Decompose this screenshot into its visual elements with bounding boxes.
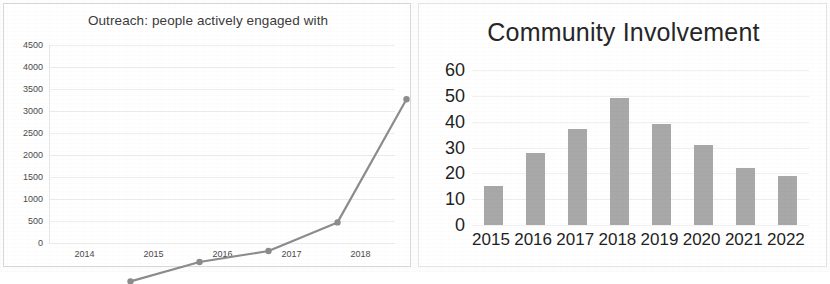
community-involvement-bar-chart-panel: Community Involvement 60 50 40 30 20 10 … xyxy=(418,3,827,267)
community-x-tick-label: 2020 xyxy=(678,230,726,250)
community-y-tick-label: 0 xyxy=(425,216,465,234)
outreach-y-tick-label: 2000 xyxy=(3,151,43,160)
community-gridline xyxy=(472,225,809,226)
community-chart-title: Community Involvement xyxy=(419,18,828,47)
community-x-tick-label: 2017 xyxy=(551,230,599,250)
outreach-plot-area: 4500 4000 3500 3000 2500 2000 1500 1000 … xyxy=(50,45,395,243)
community-plot-area: 60 50 40 30 20 10 0 2015 2016 2017 2018 … xyxy=(472,70,809,225)
outreach-y-tick-label: 500 xyxy=(3,217,43,226)
outreach-y-tick-label: 2500 xyxy=(3,129,43,138)
community-gridline xyxy=(472,148,809,149)
outreach-y-tick-label: 1000 xyxy=(3,195,43,204)
community-x-tick-label: 2018 xyxy=(593,230,641,250)
community-bar xyxy=(736,168,755,225)
community-bar xyxy=(526,153,545,225)
outreach-gridline xyxy=(50,67,395,68)
outreach-data-point xyxy=(265,248,271,254)
community-x-tick-label: 2016 xyxy=(509,230,557,250)
community-gridline xyxy=(472,70,809,71)
community-y-tick-label: 40 xyxy=(425,113,465,131)
community-gridline xyxy=(472,173,809,174)
outreach-data-point xyxy=(403,96,409,102)
outreach-y-tick-label: 3000 xyxy=(3,107,43,116)
community-bar xyxy=(778,176,797,225)
outreach-chart-title: Outreach: people actively engaged with xyxy=(4,13,412,28)
outreach-y-tick-label: 1500 xyxy=(3,173,43,182)
community-y-tick-label: 10 xyxy=(425,190,465,208)
outreach-data-point xyxy=(196,259,202,265)
outreach-data-point xyxy=(334,219,340,225)
community-y-tick-label: 50 xyxy=(425,87,465,105)
outreach-line-series xyxy=(96,86,441,284)
community-x-tick-label: 2021 xyxy=(720,230,768,250)
outreach-data-point xyxy=(127,278,133,284)
community-bar xyxy=(652,124,671,225)
outreach-gridline xyxy=(50,45,395,46)
outreach-data-markers xyxy=(127,96,409,284)
community-y-tick-label: 60 xyxy=(425,61,465,79)
community-bar xyxy=(568,129,587,225)
community-gridline xyxy=(472,122,809,123)
community-bar xyxy=(610,98,629,225)
community-gridline xyxy=(472,96,809,97)
outreach-line-chart-panel: Outreach: people actively engaged with 4… xyxy=(3,3,411,267)
outreach-y-tick-label: 0 xyxy=(3,239,43,248)
community-x-tick-label: 2015 xyxy=(467,230,515,250)
community-bar xyxy=(484,186,503,225)
community-x-tick-label: 2019 xyxy=(636,230,684,250)
community-y-tick-label: 30 xyxy=(425,139,465,157)
community-y-tick-label: 20 xyxy=(425,164,465,182)
outreach-y-tick-label: 4000 xyxy=(3,63,43,72)
community-bar xyxy=(694,145,713,225)
outreach-y-tick-label: 3500 xyxy=(3,85,43,94)
community-gridline xyxy=(472,199,809,200)
community-x-tick-label: 2022 xyxy=(762,230,810,250)
outreach-y-tick-label: 4500 xyxy=(3,41,43,50)
